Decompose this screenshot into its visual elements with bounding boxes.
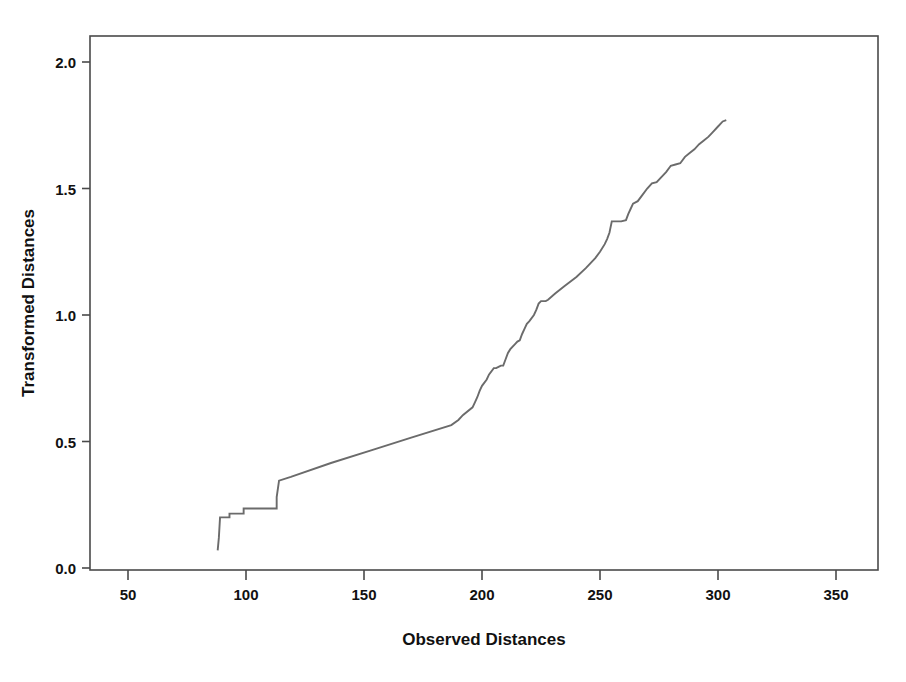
x-tick-label-50: 50 [120, 586, 137, 603]
y-tick-label-2: 2.0 [55, 54, 76, 71]
x-axis-tick-labels: 50 100 150 200 250 300 350 [120, 586, 849, 603]
y-tick-label-0: 1.0 [55, 307, 76, 324]
x-axis-title: Observed Distances [402, 630, 565, 649]
x-axis-ticks [128, 570, 836, 580]
x-tick-label-200: 200 [469, 586, 494, 603]
x-tick-label-300: 300 [705, 586, 730, 603]
x-tick-label-150: 150 [351, 586, 376, 603]
y-axis-tick-labels: 2.0 1.5 1.0 0.5 0.0 [55, 54, 76, 577]
x-tick-label-350: 350 [823, 586, 848, 603]
y-tick-label-3: 0.5 [55, 434, 76, 451]
transformation-plot-chart: 2.0 1.5 1.0 0.5 0.0 50 100 150 200 250 3… [0, 0, 906, 682]
chart-page: 2.0 1.5 1.0 0.5 0.0 50 100 150 200 250 3… [0, 0, 906, 682]
x-tick-label-250: 250 [587, 586, 612, 603]
data-series-line [218, 120, 727, 550]
y-tick-label-1: 1.5 [55, 181, 76, 198]
plot-frame [90, 36, 878, 570]
x-tick-label-100: 100 [233, 586, 258, 603]
y-axis-ticks [82, 62, 90, 568]
y-tick-label-4: 0.0 [55, 560, 76, 577]
y-axis-title: Transformed Distances [19, 209, 38, 397]
